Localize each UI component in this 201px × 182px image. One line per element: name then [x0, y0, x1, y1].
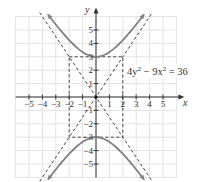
x-tick-label: 3: [134, 99, 139, 109]
x-tick-label: 1: [107, 99, 112, 109]
y-tick-label: 3: [89, 52, 94, 62]
x-tick-label: −2: [64, 99, 74, 109]
x-tick-label: 4: [147, 99, 152, 109]
y-tick-label: −2: [83, 119, 93, 129]
axes: [16, 8, 185, 178]
hyperbola-chart: −5−4−3−2−112345−5−4−3−2−112345 x y 4y2 −…: [0, 0, 201, 182]
y-tick-label: −4: [83, 146, 93, 156]
x-tick-label: 5: [161, 99, 166, 109]
y-tick-label: 1: [89, 79, 94, 89]
y-tick-label: −5: [83, 159, 93, 169]
y-tick-label: −3: [83, 132, 93, 142]
y-tick-label: 5: [89, 25, 94, 35]
x-axis-label: x: [182, 97, 188, 108]
y-tick-label: −1: [83, 105, 93, 115]
y-tick-label: 4: [89, 38, 94, 48]
y-axis-label: y: [84, 4, 90, 15]
x-tick-label: −3: [51, 99, 61, 109]
x-tick-label: −5: [24, 99, 34, 109]
y-axis-arrow-icon: [94, 8, 99, 14]
origin-point: [94, 95, 97, 98]
x-tick-label: 2: [121, 99, 126, 109]
y-tick-label: 2: [89, 65, 94, 75]
equation-label: 4y2 − 9x2 = 36: [127, 65, 188, 77]
x-tick-label: −4: [38, 99, 48, 109]
